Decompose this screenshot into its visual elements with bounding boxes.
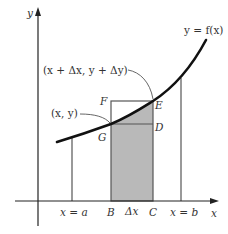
curve-label: y = f(x) [183,24,223,36]
upper-point-label: (x + Δx, y + Δy) [43,64,128,76]
point-D-label: D [154,121,164,133]
x-eq-b-label: x = b [170,206,198,218]
point-C-label: C [149,206,157,218]
leader-upper-point [128,70,153,99]
point-G-label: G [98,131,106,143]
y-axis-label: y [26,7,34,19]
x-axis-label: x [211,207,217,219]
x-eq-a-label: x = a [60,206,88,218]
shaded-area-strip [111,101,153,201]
lower-point-label: (x, y) [51,107,78,119]
leader-lower-point [80,114,110,123]
delta-x-label: Δx [124,205,139,217]
y-axis-arrow-icon [35,7,41,16]
point-B-label: B [106,206,115,218]
point-F-label: F [99,95,108,107]
x-axis-arrow-icon [210,198,219,204]
point-E-label: E [154,99,163,111]
area-under-curve-diagram: y x y = f(x) (x + Δx, y + Δy) (x, y) F E… [0,0,228,234]
